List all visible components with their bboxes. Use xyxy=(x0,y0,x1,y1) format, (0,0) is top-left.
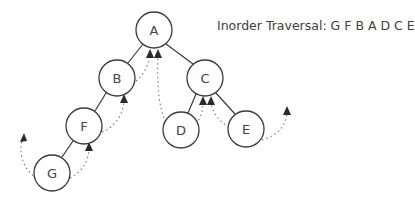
node-label: C xyxy=(200,71,209,86)
arrow-head-icon xyxy=(207,96,215,105)
traversal-path-g-f xyxy=(70,147,89,178)
edge-b-f xyxy=(95,93,106,111)
traversal-path-d-a xyxy=(158,54,166,122)
node-label: E xyxy=(242,122,250,137)
arrow-head-icon xyxy=(146,49,154,58)
arrow-head-icon xyxy=(20,133,27,142)
tree-nodes: A B C F D E G xyxy=(34,12,264,191)
edge-a-c xyxy=(166,44,193,64)
node-a: A xyxy=(136,12,172,48)
node-label: F xyxy=(80,119,87,134)
node-d: D xyxy=(163,112,199,148)
edge-a-b xyxy=(128,44,143,63)
edge-f-g xyxy=(62,141,73,157)
edge-c-d xyxy=(188,94,196,113)
node-e: E xyxy=(228,111,264,147)
node-g: G xyxy=(34,155,70,191)
node-f: F xyxy=(66,108,102,144)
node-label: A xyxy=(150,23,159,38)
edge-c-e xyxy=(216,93,235,114)
arrow-head-icon xyxy=(283,106,291,115)
traversal-path-e-end xyxy=(262,112,287,140)
arrow-head-icon xyxy=(199,96,207,105)
traversal-path-b-a xyxy=(136,54,150,81)
traversal-path-f-b xyxy=(102,99,124,132)
node-label: B xyxy=(113,71,122,86)
node-label: G xyxy=(47,166,57,181)
node-label: D xyxy=(176,123,186,138)
node-b: B xyxy=(99,60,135,96)
node-c: C xyxy=(187,60,223,96)
arrow-head-icon xyxy=(154,49,162,58)
